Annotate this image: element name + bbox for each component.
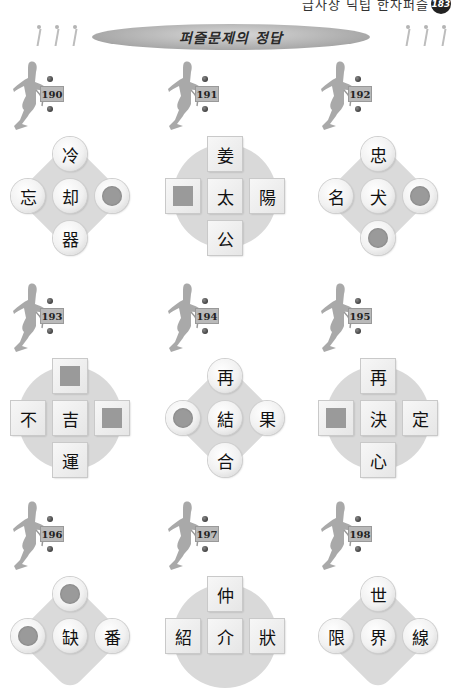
puzzle-190: 190冷忘却器 [0, 60, 150, 270]
puzzle-194: 194再結果合 [155, 282, 305, 492]
hanja-tile-center: 決 [361, 401, 395, 435]
blank-tile-top [53, 359, 87, 393]
puzzle-198: 198世限界線 [308, 500, 453, 692]
hanja-tile-right: 定 [403, 401, 437, 435]
section-banner: 퍼즐문제의 정답 [92, 24, 370, 50]
bullet-dot-icon [47, 328, 53, 334]
hanja-tile-center: 吉 [53, 401, 87, 435]
blank-marker-icon [102, 408, 122, 428]
puzzle-193: 193不吉運 [0, 282, 150, 492]
bullet-dot-icon [355, 516, 361, 522]
hanja-tile-right: 果 [250, 401, 284, 435]
hanja-tile-bottom: 公 [208, 221, 242, 255]
hanja-tile-right: 線 [403, 619, 437, 653]
puzzle-number-badge: 196 [40, 526, 64, 542]
bullet-dot-icon [202, 76, 208, 82]
blank-marker-icon [102, 186, 122, 206]
puzzle-number-badge: 193 [40, 308, 64, 324]
hanja-tile-bottom: 器 [53, 221, 87, 255]
hanja-tile-bottom: 心 [361, 443, 395, 477]
bullet-dot-icon [202, 106, 208, 112]
blank-marker-icon [410, 186, 430, 206]
bullet-dot-icon [202, 546, 208, 552]
puzzle-196: 196缺番 [0, 500, 150, 692]
hanja-tile-center: 結 [208, 401, 242, 435]
puzzle-number-badge: 190 [40, 86, 64, 102]
blank-marker-icon [18, 626, 38, 646]
blank-marker-icon [368, 228, 388, 248]
bullet-dot-icon [355, 76, 361, 82]
puzzle-195: 195再決定心 [308, 282, 453, 492]
dancer-icon [34, 25, 44, 47]
hanja-tile-top: 再 [208, 359, 242, 393]
blank-tile-top [53, 577, 87, 611]
bullet-dot-icon [355, 546, 361, 552]
blank-marker-icon [326, 408, 346, 428]
hanja-tile-top: 冷 [53, 137, 87, 171]
hanja-tile-top: 世 [361, 577, 395, 611]
bullet-dot-icon [355, 106, 361, 112]
hanja-tile-center: 却 [53, 179, 87, 213]
dancer-icon [439, 25, 449, 47]
blank-tile-left [166, 401, 200, 435]
hanja-tile-center: 太 [208, 179, 242, 213]
puzzle-191: 191姜太陽公 [155, 60, 305, 270]
blank-marker-icon [173, 408, 193, 428]
blank-tile-left [11, 619, 45, 653]
bullet-dot-icon [202, 328, 208, 334]
hanja-tile-left: 限 [319, 619, 353, 653]
hanja-tile-left: 名 [319, 179, 353, 213]
hanja-tile-center: 界 [361, 619, 395, 653]
hanja-tile-top: 再 [361, 359, 395, 393]
puzzle-197: 197仲紹介狀 [155, 500, 305, 692]
blank-tile-left [166, 179, 200, 213]
dancer-icon [52, 25, 62, 47]
blank-tile-right [403, 179, 437, 213]
bullet-dot-icon [47, 76, 53, 82]
puzzle-number-badge: 194 [195, 308, 219, 324]
puzzle-number-badge: 198 [348, 526, 372, 542]
bullet-dot-icon [47, 298, 53, 304]
puzzle-number-badge: 197 [195, 526, 219, 542]
hanja-tile-bottom: 合 [208, 443, 242, 477]
hanja-tile-right: 番 [95, 619, 129, 653]
hanja-tile-top: 仲 [208, 577, 242, 611]
hanja-tile-center: 介 [208, 619, 242, 653]
hanja-tile-bottom: 運 [53, 443, 87, 477]
dancing-figures-right-decoration [403, 25, 449, 47]
bullet-dot-icon [355, 328, 361, 334]
hanja-tile-left: 不 [11, 401, 45, 435]
bullet-dot-icon [47, 516, 53, 522]
hanja-tile-center: 缺 [53, 619, 87, 653]
bullet-dot-icon [47, 546, 53, 552]
dancer-icon [70, 25, 80, 47]
blank-tile-right [95, 401, 129, 435]
running-header: 급사장 닉팁 한자퍼즐 [302, 0, 429, 13]
blank-marker-icon [60, 366, 80, 386]
hanja-tile-right: 狀 [250, 619, 284, 653]
puzzle-192: 192忠名犬 [308, 60, 453, 270]
banner-title: 퍼즐문제의 정답 [179, 27, 283, 47]
bullet-dot-icon [202, 516, 208, 522]
blank-marker-icon [173, 186, 193, 206]
hanja-tile-top: 忠 [361, 137, 395, 171]
page-number-badge: 183 [431, 0, 451, 14]
bullet-dot-icon [355, 298, 361, 304]
blank-tile-bottom [361, 221, 395, 255]
hanja-tile-center: 犬 [361, 179, 395, 213]
bullet-dot-icon [47, 106, 53, 112]
hanja-tile-left: 紹 [166, 619, 200, 653]
puzzle-number-badge: 192 [348, 86, 372, 102]
hanja-tile-right: 陽 [250, 179, 284, 213]
blank-marker-icon [60, 584, 80, 604]
dancer-icon [421, 25, 431, 47]
dancing-figures-left-decoration [34, 25, 80, 47]
blank-tile-left [319, 401, 353, 435]
bullet-dot-icon [202, 298, 208, 304]
puzzle-number-badge: 191 [195, 86, 219, 102]
hanja-tile-top: 姜 [208, 137, 242, 171]
blank-tile-right [95, 179, 129, 213]
dancer-icon [403, 25, 413, 47]
puzzle-number-badge: 195 [348, 308, 372, 324]
hanja-tile-left: 忘 [11, 179, 45, 213]
